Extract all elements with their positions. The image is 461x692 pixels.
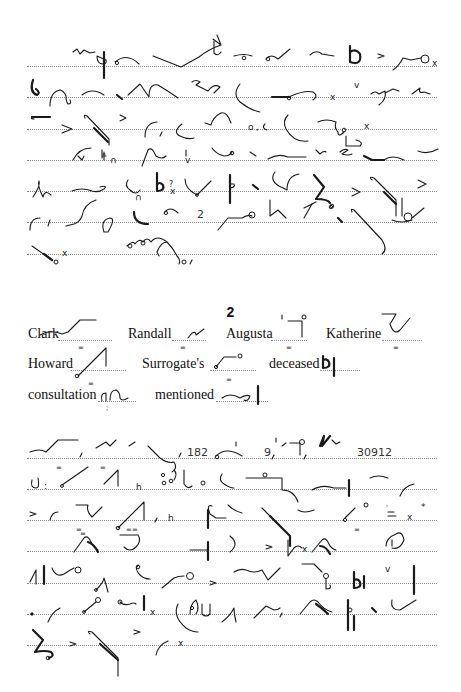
svg-text:=: = — [126, 526, 132, 534]
svg-text::: : — [44, 481, 47, 491]
svg-text:∩: ∩ — [110, 155, 117, 165]
svg-text:=: = — [78, 344, 84, 352]
svg-text:v: v — [354, 80, 360, 90]
svg-text:=: = — [88, 380, 94, 388]
svg-text:h: h — [168, 513, 174, 523]
svg-text:v: v — [185, 155, 191, 165]
svg-text:v: v — [385, 564, 391, 574]
svg-text:=: = — [286, 344, 292, 352]
svg-text:=: = — [226, 376, 232, 384]
svg-text:=: = — [354, 526, 360, 534]
svg-text:o: o — [248, 122, 254, 132]
svg-text:x: x — [178, 638, 184, 648]
svg-text:x: x — [62, 248, 68, 258]
svg-text:h: h — [136, 482, 142, 492]
svg-text:x: x — [330, 92, 336, 102]
shorthand-outlines: x x v o, x ∩ v ∩ ?x — [0, 0, 461, 692]
svg-text:=: = — [180, 344, 186, 352]
svg-text:;: ; — [106, 404, 108, 412]
svg-text:x: x — [432, 58, 438, 68]
svg-text:x: x — [170, 186, 176, 196]
svg-text:=: = — [76, 526, 82, 534]
svg-text:∩: ∩ — [135, 192, 142, 202]
svg-text:x: x — [364, 121, 370, 131]
svg-text:=: = — [56, 464, 62, 472]
svg-text:=: = — [132, 526, 138, 534]
svg-text:x: x — [150, 607, 156, 617]
svg-text:,: , — [256, 122, 259, 132]
svg-text:': ' — [386, 504, 388, 512]
svg-text:*: * — [421, 502, 426, 512]
svg-text:x: x — [407, 512, 413, 522]
svg-text:x: x — [302, 544, 308, 554]
svg-text:=: = — [100, 464, 106, 472]
svg-text:=: = — [393, 344, 399, 352]
